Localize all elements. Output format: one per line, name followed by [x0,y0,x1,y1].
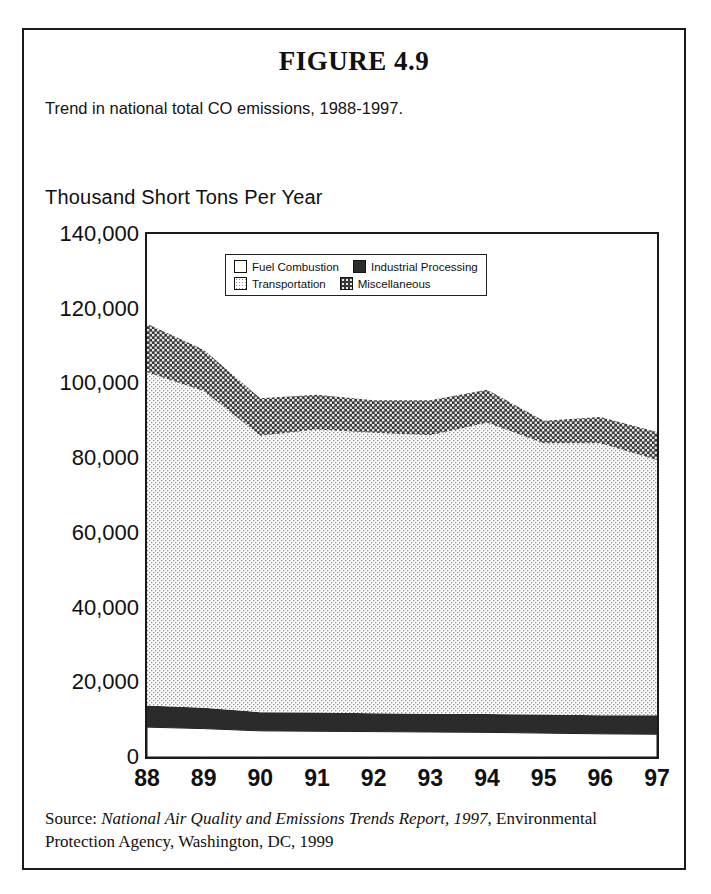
chart-area: 020,00040,00060,00080,000100,000120,0001… [24,30,684,868]
legend-swatch-miscellaneous-icon [340,277,353,290]
chart-legend: Fuel Combustion Industrial Processing Tr… [225,254,487,296]
legend-item-industrial-processing: Industrial Processing [353,260,478,273]
legend-label-transportation: Transportation [252,278,326,290]
legend-swatch-industrial-processing-icon [353,260,366,273]
x-tick-label: 92 [354,765,394,792]
y-tick-label: 140,000 [21,221,139,247]
x-tick-label: 94 [467,765,507,792]
legend-item-transportation: Transportation [234,277,326,290]
y-axis-tick-labels: 020,00040,00060,00080,000100,000120,0001… [24,30,139,799]
y-tick-label: 20,000 [21,669,139,695]
legend-row: Fuel Combustion Industrial Processing [234,260,478,273]
legend-item-miscellaneous: Miscellaneous [340,277,431,290]
source-prefix: Source: [45,809,101,828]
x-tick-label: 97 [637,765,677,792]
figure-container: FIGURE 4.9 Trend in national total CO em… [22,28,686,870]
y-tick-label: 60,000 [21,520,139,546]
stacked-area-chart [147,234,657,757]
legend-item-fuel-combustion: Fuel Combustion [234,260,339,273]
y-tick-label: 40,000 [21,595,139,621]
x-tick-label: 95 [524,765,564,792]
x-axis-tick-labels: 88899091929394959697 [24,765,684,799]
y-tick-label: 100,000 [21,370,139,396]
legend-swatch-fuel-combustion-icon [234,260,247,273]
x-tick-label: 93 [410,765,450,792]
x-tick-label: 90 [240,765,280,792]
y-tick-label: 80,000 [21,445,139,471]
legend-row: Transportation Miscellaneous [234,277,478,290]
legend-label-fuel-combustion: Fuel Combustion [252,261,339,273]
legend-label-miscellaneous: Miscellaneous [358,278,431,290]
x-tick-label: 96 [580,765,620,792]
source-note: Source: National Air Quality and Emissio… [45,808,666,854]
source-title: National Air Quality and Emissions Trend… [101,809,487,828]
x-tick-label: 91 [297,765,337,792]
x-tick-label: 88 [127,765,167,792]
y-tick-label: 120,000 [21,296,139,322]
plot-frame [145,232,659,759]
legend-label-industrial-processing: Industrial Processing [371,261,478,273]
x-tick-label: 89 [184,765,224,792]
legend-swatch-transportation-icon [234,277,247,290]
